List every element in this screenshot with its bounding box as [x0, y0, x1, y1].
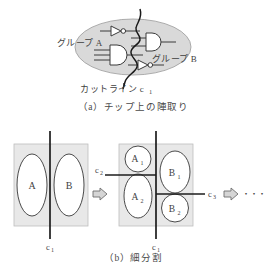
- group-b-label: グループ B: [152, 53, 197, 64]
- region-B2-sub: 2: [178, 210, 181, 216]
- cutline-label: カットライン c: [80, 84, 144, 94]
- region-A1-sub: 1: [141, 160, 144, 166]
- caption-a: （a）チップ上の陣取り: [0, 99, 266, 113]
- caption-b: （b）細分割: [0, 250, 266, 264]
- panel-b: A B c 1 A 1 A 2 B: [14, 131, 266, 253]
- region-A1-label: A: [132, 154, 139, 164]
- cutline-c2-label: c: [95, 165, 99, 175]
- group-a-label: グループ A: [57, 37, 103, 48]
- cutline-label-sub: 1: [149, 88, 152, 95]
- figure-container: カットライン c 1 グループ A グループ B A B c 1: [0, 0, 266, 277]
- region-B2-label: B: [169, 204, 175, 214]
- ellipsis-label: ・・・: [242, 190, 266, 199]
- cutline-c3-label: c: [208, 189, 212, 199]
- region-A2-label: A: [132, 192, 139, 202]
- panel-a: カットライン c 1 グループ A グループ B: [57, 9, 197, 95]
- region-A2-sub: 2: [141, 198, 144, 204]
- region-B1-sub: 1: [178, 174, 181, 180]
- right-chip-box: A 1 A 2 B 1 B 2 c 1 c 2 c 3: [95, 131, 216, 253]
- transform-arrow-1: [93, 188, 107, 200]
- transform-arrow-2: [224, 188, 238, 200]
- cutline-c2-sub: 2: [100, 170, 103, 176]
- figure-svg: カットライン c 1 グループ A グループ B A B c 1: [0, 0, 266, 277]
- cutline-c3-sub: 3: [213, 194, 216, 200]
- region-B-label: B: [66, 180, 73, 191]
- region-A-label: A: [28, 180, 36, 191]
- region-B1-label: B: [169, 168, 175, 178]
- left-chip-box: A B c 1: [14, 131, 88, 253]
